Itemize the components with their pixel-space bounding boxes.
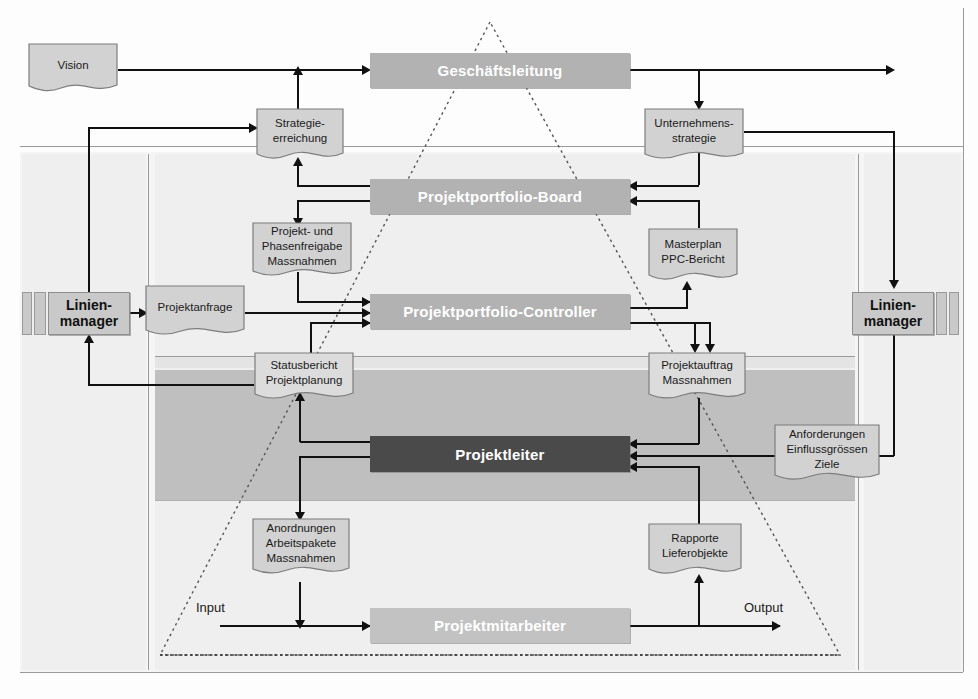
document-shape-unternehmensstrategie <box>644 108 744 164</box>
connector-ppc-to-board-v <box>698 200 700 228</box>
arrowhead-us-to-rightmgr <box>889 280 899 289</box>
role-label-projektmitarbeiter: Projektmitarbeiter <box>434 617 566 634</box>
role-label-geschaeftsleitung: Geschäftsleitung <box>438 62 563 79</box>
divider-bottom <box>20 672 963 673</box>
document-rapporte[interactable]: Rapporte Lieferobjekte <box>648 523 742 579</box>
document-anforderungen[interactable]: Anforderungen Einflussgrössen Ziele <box>774 424 880 486</box>
divider-left-column <box>148 154 149 670</box>
connector-pl-to-status-v <box>299 398 301 442</box>
document-shape-anordnungen <box>252 518 350 580</box>
divider-right-column <box>858 154 859 670</box>
document-shape-projektanfrage <box>145 285 245 340</box>
label-input: Input <box>196 600 225 615</box>
document-shape-vision <box>28 43 118 96</box>
connector-left-to-strategie <box>88 127 255 129</box>
connector-pm-to-output <box>630 625 780 627</box>
document-shape-projektauftrag <box>648 352 746 404</box>
connector-rapporte-to-pl-v <box>698 466 700 526</box>
connector-ctrl-to-ppc-h <box>630 307 688 309</box>
linienmanager-left[interactable]: Linien- manager <box>48 292 130 335</box>
connector-rapporte-to-pl-h <box>636 466 699 468</box>
connector-left-riser <box>88 127 90 299</box>
connector-ctrl-to-auftrag-h <box>630 322 710 324</box>
role-label-projektportfolio-controller: Projektportfolio-Controller <box>403 303 597 320</box>
document-vision[interactable]: Vision <box>28 43 118 96</box>
frame-right-edge <box>963 8 964 672</box>
divider-top <box>20 146 963 147</box>
background-band-left-column <box>22 154 146 670</box>
connector-gl-right <box>630 69 892 71</box>
stack-bar-right-1 <box>936 292 947 335</box>
arrowhead-gl-right <box>886 65 895 75</box>
document-projekt-phasenfreigabe[interactable]: Projekt- und Phasenfreigabe Massnahmen <box>252 222 352 282</box>
connector-board-to-freigabe-h <box>297 200 372 202</box>
document-strategieerreichung[interactable]: Strategie- erreichung <box>256 108 344 164</box>
arrowhead-status-to-mgr <box>84 334 94 343</box>
connector-us-to-rightmgr-h <box>744 131 894 133</box>
document-anordnungen[interactable]: Anordnungen Arbeitspakete Massnahmen <box>252 518 350 580</box>
connector-anford-to-pl <box>636 455 776 457</box>
linienmanager-right-line1: Linien- <box>864 298 922 314</box>
role-bar-projektmitarbeiter[interactable]: Projektmitarbeiter <box>370 608 630 643</box>
role-label-projektportfolio-board: Projektportfolio-Board <box>418 188 582 205</box>
connector-pl-to-anord-v <box>299 456 301 516</box>
document-projektauftrag[interactable]: Projektauftrag Massnahmen <box>648 352 746 404</box>
connector-pm-to-rapporte-v <box>698 580 700 626</box>
connector-freigabe-to-ctrl-h <box>297 301 370 303</box>
arrowhead-pm-to-output <box>772 621 781 631</box>
background-band-right-column <box>864 154 961 670</box>
role-bar-projektleiter[interactable]: Projektleiter <box>370 436 630 472</box>
role-bar-projektportfolio-board[interactable]: Projektportfolio-Board <box>370 179 630 214</box>
connector-auftrag-to-pl-h <box>636 443 699 445</box>
document-statusbericht[interactable]: Statusbericht Projektplanung <box>254 352 354 404</box>
connector-auftrag-to-pl-v <box>698 398 700 444</box>
document-shape-projekt-phasenfreigabe <box>252 222 352 282</box>
linienmanager-left-line1: Linien- <box>60 298 118 314</box>
connector-vision-to-gl <box>118 69 368 71</box>
role-bar-geschaeftsleitung[interactable]: Geschäftsleitung <box>370 53 630 88</box>
document-shape-anforderungen <box>774 424 880 486</box>
connector-status-to-mgr-v <box>88 340 90 385</box>
document-shape-strategieerreichung <box>256 108 344 164</box>
linienmanager-left-line2: manager <box>60 314 118 330</box>
label-output: Output <box>744 600 783 615</box>
connector-board-to-strategie-h <box>297 185 372 187</box>
document-shape-masterplan-ppc <box>648 228 738 285</box>
connector-board-to-strategie-v <box>297 163 299 186</box>
stack-bar-right-2 <box>949 292 959 335</box>
connector-input-to-pm <box>220 625 372 627</box>
role-bar-projektportfolio-controller[interactable]: Projektportfolio-Controller <box>370 294 630 329</box>
connector-ctrl-to-ppc-v <box>686 288 688 308</box>
diagram-canvas: Geschäftsleitung Projektportfolio-Board … <box>0 0 978 699</box>
document-shape-statusbericht <box>254 352 354 404</box>
connector-ppc-to-board-h <box>636 200 699 202</box>
connector-us-to-rightmgr-v <box>893 131 895 283</box>
linienmanager-right[interactable]: Linien- manager <box>852 292 934 335</box>
connector-status-to-mgr-h <box>88 384 254 386</box>
arrowhead-strategie-to-gl <box>293 66 303 75</box>
connector-us-to-board-h <box>636 185 699 187</box>
document-unternehmensstrategie[interactable]: Unternehmens- strategie <box>644 108 744 164</box>
linienmanager-right-line2: manager <box>864 314 922 330</box>
stack-bar-left-2 <box>34 292 46 335</box>
document-shape-rapporte <box>648 523 742 579</box>
connector-pl-to-anord-h <box>300 456 372 458</box>
connector-rightmgr-to-anford-v <box>893 334 895 456</box>
document-projektanfrage[interactable]: Projektanfrage <box>145 285 245 340</box>
stack-bar-left-1 <box>22 292 32 335</box>
divider-lane-bottom <box>155 500 855 501</box>
connector-pl-to-status-h <box>300 441 372 443</box>
connector-anfrage-to-ctrl <box>245 312 372 314</box>
role-label-projektleiter: Projektleiter <box>455 446 544 463</box>
document-masterplan-ppc[interactable]: Masterplan PPC-Bericht <box>648 228 738 285</box>
